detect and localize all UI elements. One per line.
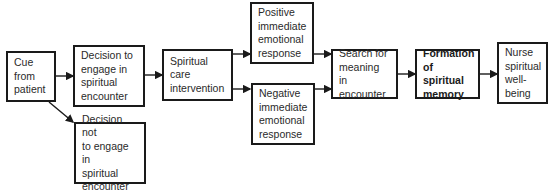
node-label: Negative immediate emotional response bbox=[259, 87, 307, 141]
node-label: Decision to engage in spiritual encounte… bbox=[81, 49, 133, 103]
node-positive-emotional-response: Positive immediate emotional response bbox=[250, 2, 314, 64]
node-label: Nurse spiritual well- being bbox=[505, 46, 541, 100]
node-negative-emotional-response: Negative immediate emotional response bbox=[251, 83, 315, 145]
arrow-cue-to-not-engage bbox=[49, 102, 73, 122]
node-label: Search for meaning in encounter bbox=[339, 47, 390, 101]
node-decision-not-to-engage: Decision not to engage in spiritual enco… bbox=[74, 122, 146, 184]
node-label: Positive immediate emotional response bbox=[258, 6, 306, 60]
node-nurse-spiritual-well-being: Nurse spiritual well- being bbox=[497, 42, 548, 104]
node-search-for-meaning: Search for meaning in encounter bbox=[331, 49, 398, 99]
node-label: Cue from patient bbox=[14, 56, 46, 97]
node-spiritual-care-intervention: Spiritual care intervention bbox=[162, 49, 233, 101]
node-formation-of-spiritual-memory: Formation of spiritual memory bbox=[415, 49, 480, 99]
node-decision-to-engage: Decision to engage in spiritual encounte… bbox=[73, 45, 145, 107]
node-label: Formation of spiritual memory bbox=[423, 47, 474, 101]
node-cue-from-patient: Cue from patient bbox=[6, 51, 56, 102]
node-label: Spiritual care intervention bbox=[170, 55, 225, 96]
node-label: Decision not to engage in spiritual enco… bbox=[82, 113, 138, 192]
